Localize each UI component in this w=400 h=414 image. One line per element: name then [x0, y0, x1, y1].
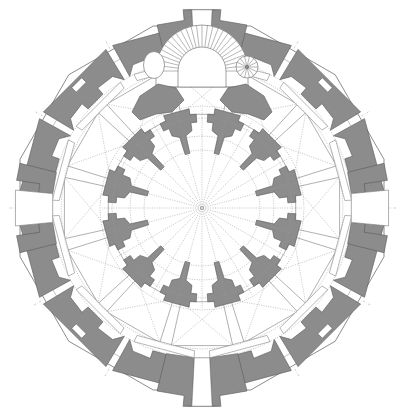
- floor-plan-canvas: Centrally Planned Dodecagonal Church — G…: [0, 0, 400, 414]
- floor-plan-drawing: Centrally Planned Dodecagonal Church — G…: [0, 0, 400, 414]
- west-side-door-opening[interactable]: [15, 190, 52, 226]
- chapel-bay: [171, 302, 233, 346]
- oval-chamber: [144, 52, 165, 79]
- east-side-door-opening[interactable]: [351, 190, 388, 226]
- south-portal-opening[interactable]: [192, 358, 212, 406]
- chapel-bay: [64, 177, 108, 239]
- spiral-stair[interactable]: [236, 56, 258, 78]
- chapel-bay: [296, 177, 340, 239]
- spiral-stair-newel: [245, 65, 248, 68]
